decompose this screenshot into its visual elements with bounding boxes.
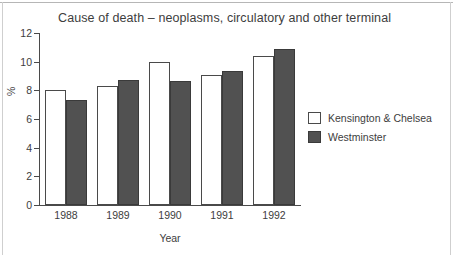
x-tick-label-1989: 1989	[92, 209, 144, 221]
chart-figure: Cause of death – neoplasms, circulatory …	[0, 0, 453, 255]
legend-label: Kensington & Chelsea	[328, 112, 432, 124]
x-tick-label-1990: 1990	[144, 209, 196, 221]
y-tick-mark	[34, 33, 39, 34]
y-tick-mark	[34, 205, 39, 206]
x-axis-line	[39, 205, 301, 206]
x-tick-label-1988: 1988	[40, 209, 92, 221]
page-border-top	[0, 2, 453, 3]
plot-area	[40, 33, 300, 205]
y-tick-label: 0	[12, 200, 32, 211]
x-axis-label: Year	[40, 232, 300, 244]
y-tick-label: 6	[12, 114, 32, 125]
bar-kensington-chelsea-1990	[149, 62, 170, 205]
y-tick-mark	[34, 90, 39, 91]
bar-kensington-chelsea-1988	[45, 90, 66, 205]
bar-westminster-1991	[222, 71, 243, 205]
y-tick-label: 10	[12, 57, 32, 68]
y-tick-label: 8	[12, 85, 32, 96]
page-border-left	[2, 2, 3, 255]
bar-westminster-1990	[170, 81, 191, 205]
y-tick-mark	[34, 119, 39, 120]
y-tick-mark	[34, 148, 39, 149]
legend-swatch-icon	[308, 112, 321, 124]
chart-title: Cause of death – neoplasms, circulatory …	[58, 11, 448, 25]
legend-item-kensington-chelsea[interactable]: Kensington & Chelsea	[308, 108, 432, 127]
bar-kensington-chelsea-1991	[201, 75, 222, 205]
y-tick-label: 12	[12, 28, 32, 39]
legend-swatch-icon	[308, 131, 321, 143]
chart-legend: Kensington & ChelseaWestminster	[308, 108, 432, 146]
bar-kensington-chelsea-1992	[253, 56, 274, 205]
legend-item-westminster[interactable]: Westminster	[308, 127, 432, 146]
bar-westminster-1992	[274, 49, 295, 205]
x-tick-label-1991: 1991	[196, 209, 248, 221]
y-tick-label: 4	[12, 143, 32, 154]
bar-kensington-chelsea-1989	[97, 86, 118, 205]
x-tick-label-1992: 1992	[248, 209, 300, 221]
bar-westminster-1988	[66, 100, 87, 205]
legend-label: Westminster	[328, 131, 386, 143]
y-tick-label: 2	[12, 171, 32, 182]
page-border-right	[450, 2, 451, 255]
y-tick-mark	[34, 176, 39, 177]
bar-westminster-1989	[118, 80, 139, 205]
y-tick-mark	[34, 62, 39, 63]
